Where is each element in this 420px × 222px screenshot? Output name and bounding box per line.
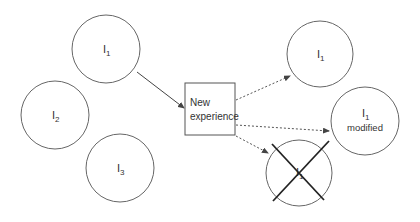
svg-text:I1: I1 bbox=[362, 107, 370, 122]
outcome-arrow-rejected bbox=[236, 136, 268, 153]
svg-text:modified: modified bbox=[347, 122, 383, 133]
new-experience-box: New experience bbox=[185, 83, 239, 135]
outcome-arrow-kept bbox=[236, 76, 290, 100]
svg-text:I1: I1 bbox=[317, 48, 325, 63]
svg-text:experience: experience bbox=[190, 111, 239, 122]
outcome-circle-kept: I1 bbox=[287, 21, 353, 87]
idea-diagram: I1 I2 I3 New experience I1 I1 modified I… bbox=[0, 0, 420, 222]
cross-out-mark bbox=[272, 144, 324, 200]
svg-text:I3: I3 bbox=[117, 162, 125, 177]
outcome-arrow-modified bbox=[236, 125, 329, 131]
svg-text:I2: I2 bbox=[52, 109, 60, 124]
idea-circle-i1-left: I1 bbox=[72, 15, 140, 83]
idea-circle-i2: I2 bbox=[21, 81, 89, 149]
svg-text:New: New bbox=[190, 97, 211, 108]
idea-circle-i3: I3 bbox=[86, 134, 154, 202]
outcome-circle-modified: I1 modified bbox=[331, 87, 399, 155]
svg-text:I1: I1 bbox=[103, 43, 111, 58]
outcome-circle-rejected: I1 bbox=[266, 140, 332, 206]
input-arrow bbox=[137, 72, 184, 108]
